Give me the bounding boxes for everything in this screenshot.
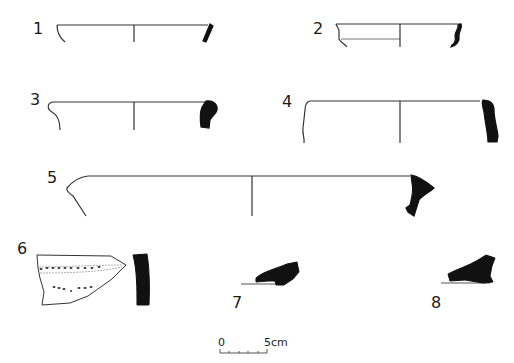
vessel-5-section: [406, 175, 434, 216]
vessel-5-drawing: [67, 175, 434, 216]
figure-number-6: 6: [17, 241, 27, 257]
figure-number-5: 5: [47, 170, 57, 186]
base-8-section: [448, 255, 495, 283]
sherd-6-drawing: [37, 254, 149, 305]
figure-number-2: 2: [313, 21, 323, 37]
vessel-1-section: [203, 24, 213, 42]
scale-end-label: 5cm: [264, 337, 288, 348]
figure-number-7: 7: [232, 295, 242, 311]
base-7-drawing: [241, 262, 299, 285]
scale-start-label: 0: [218, 337, 225, 348]
vessel-3-section: [200, 101, 217, 128]
figure-number-8: 8: [431, 295, 441, 311]
vessel-2-drawing: [336, 24, 461, 47]
figure-number-1: 1: [33, 21, 43, 37]
vessel-4-drawing: [303, 100, 498, 143]
base-8-drawing: [441, 255, 495, 283]
vessel-2-section: [451, 24, 461, 47]
base-7-section: [256, 262, 299, 285]
figure-number-4: 4: [282, 94, 292, 110]
scale-bar: [220, 349, 267, 353]
vessel-4-section: [482, 100, 498, 142]
vessel-1-drawing: [57, 24, 213, 42]
vessel-3-drawing: [48, 101, 217, 130]
sherd-6-section: [133, 254, 149, 305]
figure-number-3: 3: [30, 92, 40, 108]
